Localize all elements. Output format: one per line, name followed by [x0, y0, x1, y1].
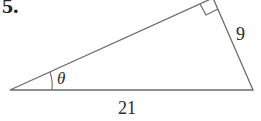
problem-number: 5. [2, 0, 19, 18]
angle-theta-label: θ [57, 69, 65, 88]
angle-arc [50, 72, 52, 90]
base-length-label: 21 [118, 98, 136, 118]
right-triangle [10, 0, 253, 90]
right-angle-marker [200, 4, 218, 15]
triangle-diagram: 5. θ 21 9 [0, 0, 261, 121]
side-length-label: 9 [236, 24, 245, 44]
